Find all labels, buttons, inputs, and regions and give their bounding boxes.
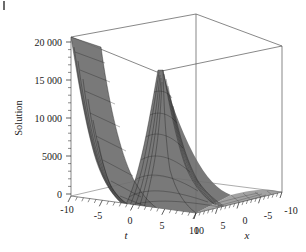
t-tick--10 bbox=[68, 196, 71, 202]
t-tick-label--10: -10 bbox=[60, 204, 73, 215]
x-tick-label--5: -5 bbox=[264, 210, 272, 221]
x-tick--5 bbox=[259, 197, 261, 203]
z-tick-label-0: 0 bbox=[57, 189, 62, 200]
t-tick--5 bbox=[99, 200, 102, 206]
x-tick--10 bbox=[280, 192, 282, 198]
x-tick-label-5: 5 bbox=[221, 220, 226, 231]
t-axis-title: t bbox=[124, 229, 128, 241]
x-tick-label-0: 0 bbox=[243, 215, 248, 226]
t-tick-5 bbox=[162, 209, 165, 215]
x-axis-title: x bbox=[244, 229, 250, 241]
x-tick-label-10: 10 bbox=[194, 225, 204, 236]
z-tick-label-5000: 5000 bbox=[42, 151, 62, 162]
surface-plot-figure: 20 000 15 000 10 000 5000 0 Solution bbox=[0, 0, 306, 252]
x-tick-5 bbox=[216, 208, 218, 214]
x-tick-label--10: -10 bbox=[284, 205, 297, 216]
z-tick-label-10000: 10 000 bbox=[35, 113, 63, 124]
x-tick-0 bbox=[237, 203, 239, 209]
z-axis-title: Solution bbox=[13, 99, 24, 135]
plot-canvas: 20 000 15 000 10 000 5000 0 Solution bbox=[0, 0, 306, 252]
solution-surface bbox=[71, 37, 282, 213]
t-tick-0 bbox=[131, 205, 134, 211]
t-tick-label-5: 5 bbox=[160, 220, 165, 231]
z-tick-label-20000: 20 000 bbox=[35, 37, 63, 48]
t-tick-label--5: -5 bbox=[94, 210, 102, 221]
z-tick-label-15000: 15 000 bbox=[35, 75, 63, 86]
t-tick-label-0: 0 bbox=[128, 215, 133, 226]
